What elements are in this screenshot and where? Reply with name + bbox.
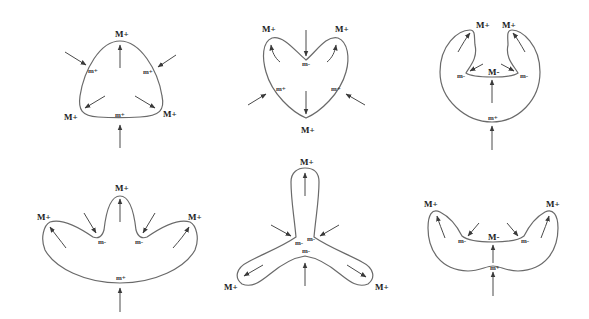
panel-2-label-top-right: M+	[335, 24, 349, 34]
panel-4-arrow-left-in	[84, 213, 96, 233]
panel-1-arrow-left-in	[65, 52, 86, 65]
panel-4-label-inner-left: m-	[98, 238, 107, 246]
panel-3-arrow-left-in	[470, 64, 483, 71]
panel-1-label-bottom-left: M+	[64, 112, 78, 122]
panel-5-arrow-upper-left-in	[271, 225, 291, 236]
panel-6-label-center: M-	[488, 232, 500, 242]
panel-6-label-top-right: M+	[546, 199, 560, 209]
panel-3-label-top-right: M+	[502, 20, 516, 30]
panel-1-arrow-down-left	[85, 96, 105, 108]
panel-2-arrow-right-in	[346, 94, 365, 105]
panel-4-arrow-right-up	[173, 227, 189, 248]
panel-5-label-bottom-left: M+	[224, 282, 238, 292]
panel-2-arrow-left-in	[248, 94, 266, 105]
panel-2-label-left: m+	[276, 85, 286, 93]
panel-4-arrow-right-in	[143, 213, 155, 233]
panel-6-arrow-right-in	[507, 223, 518, 236]
panel-2-label-bottom: M+	[301, 125, 315, 135]
panel-5-arrow-lower-right-out	[347, 265, 366, 277]
panel-4-label-inner-right: m-	[135, 238, 144, 246]
panel-3-label-right: m-	[520, 72, 529, 80]
panel-1-label-bottom: m+	[115, 111, 125, 119]
panel-5-arrow-lower-left-out	[244, 265, 263, 276]
panel-3-label-top-left: M+	[476, 20, 490, 30]
panel-5-label-bottom-right: M+	[375, 282, 389, 292]
panel-6-label-bottom: m+	[490, 264, 500, 272]
panel-5-label-top: M+	[300, 157, 314, 167]
panel-1-label-right: m+	[143, 68, 153, 76]
panel-4-arrow-left-up	[50, 227, 66, 248]
panel-2-heart: M+ M+ m- m+ m+ M+	[248, 24, 365, 135]
panel-6-label-right: m-	[521, 237, 530, 245]
panel-4-label-left: M+	[37, 212, 51, 222]
panel-6-arrow-left-in	[468, 223, 479, 236]
panel-4-label-top: M+	[115, 183, 129, 193]
panel-3-label-left: m-	[457, 72, 466, 80]
panel-3-arrow-left-up	[458, 33, 470, 52]
panel-5-arrow-upper-right-in	[320, 225, 339, 236]
panel-5-label-left: m-	[295, 239, 304, 247]
panel-2-arrow-left-up	[271, 45, 280, 62]
panel-5-propeller: M+ m- m- m- M+ M+	[224, 157, 389, 292]
panel-3-horseshoe: M+ M+ m- M- m- m+	[440, 20, 540, 150]
panel-6-label-top-left: M+	[424, 199, 438, 209]
panel-2-label-center: m-	[302, 60, 311, 68]
panel-1-label-left: m+	[88, 67, 98, 75]
diagram-canvas: M+ m+ m+ M+ m+ M+ M+ M+ m- m+ m+ M+ M+ M…	[0, 0, 589, 319]
panel-6-label-left: m-	[458, 237, 467, 245]
panel-3-label-center: M-	[488, 67, 500, 77]
panel-4-label-bottom: m+	[116, 274, 126, 282]
panel-2-label-right: m+	[331, 85, 341, 93]
panel-6-wing: M+ M+ m- M- m- m+	[424, 199, 560, 296]
panel-4-label-right: M+	[188, 212, 202, 222]
panel-2-arrow-right-up	[327, 45, 336, 62]
panel-6-arrow-left-up	[437, 216, 445, 238]
panel-1-arrow-right-in	[158, 55, 176, 67]
panel-1-rounded-triangle: M+ m+ m+ M+ m+ M+	[64, 29, 177, 148]
panel-6-arrow-right-up	[541, 216, 549, 238]
panel-5-label-right: m-	[307, 235, 316, 243]
panel-2-label-top-left: M+	[262, 24, 276, 34]
panel-4-crown: M+ M+ M+ m- m- m+	[37, 183, 202, 312]
panel-1-label-top: M+	[115, 29, 129, 39]
panel-1-contour	[80, 41, 163, 118]
panel-1-label-bottom-right: M+	[163, 109, 177, 119]
panel-1-arrow-down-right	[135, 96, 155, 108]
panel-3-label-bottom: m+	[488, 114, 498, 122]
panel-5-label-lower: m-	[302, 247, 311, 255]
panel-3-arrow-right-up	[513, 33, 525, 52]
